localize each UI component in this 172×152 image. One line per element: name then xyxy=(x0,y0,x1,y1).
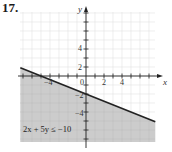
inequality-graph: x y −4 0 2 4 4 2 −2 −4 2x + 5y ≤ −10 xyxy=(0,0,172,152)
y-axis-arrow-icon xyxy=(84,6,88,12)
x-tick-label: 0 xyxy=(80,78,84,87)
x-tick-label: −4 xyxy=(44,78,53,87)
inequality-label: 2x + 5y ≤ −10 xyxy=(23,124,71,134)
y-tick-label: −2 xyxy=(75,91,84,100)
y-tick-label: 4 xyxy=(78,44,82,53)
x-tick-label: 4 xyxy=(120,78,124,87)
y-tick-label: 2 xyxy=(78,63,82,72)
x-axis-label: x xyxy=(162,77,167,87)
y-tick-label: −4 xyxy=(75,109,84,118)
y-axis-label: y xyxy=(77,4,82,14)
x-tick-label: 2 xyxy=(102,78,106,87)
